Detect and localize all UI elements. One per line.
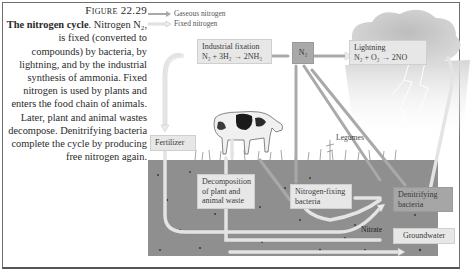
groundwater-box: Groundwater (393, 228, 455, 244)
denitrifying-label: Denitrifying bacteria (398, 190, 438, 209)
legend-label: Gaseous nitrogen (174, 9, 226, 19)
nitrogen-fixing-box: Nitrogen-fixing bacteria (290, 184, 352, 209)
industrial-fixation-box: Industrial fixation N₂ + 3H₂ → 2NH₃ (197, 39, 272, 64)
n2-box: N₂ (292, 42, 314, 64)
legend-item-gaseous: Gaseous nitrogen (148, 9, 226, 19)
legend: Gaseous nitrogen Fixed nitrogen (148, 9, 226, 29)
nitrate-label: Nitrate (361, 225, 382, 234)
legend-label: Fixed nitrogen (174, 19, 217, 29)
gaseous-arrow-icon (148, 11, 172, 17)
industrial-fixation-title: Industrial fixation (202, 42, 267, 52)
fertilizer-box: Fertilizer (150, 135, 196, 151)
n2-label: N₂ (299, 48, 308, 57)
legumes-label: Legumes (336, 133, 364, 142)
denitrifying-box: Denitrifying bacteria (393, 187, 453, 212)
nitrogen-fixing-label: Nitrogen-fixing bacteria (295, 187, 345, 206)
lightning-equation: N₂ + O₂ → 2NO (354, 53, 422, 63)
decomposition-label: Decomposition of plant and animal waste (202, 177, 251, 205)
fixed-arrow-icon (148, 21, 172, 27)
lightning-title: Lightning (354, 43, 422, 53)
decomposition-box: Decomposition of plant and animal waste (197, 174, 255, 209)
fertilizer-label: Fertilizer (155, 138, 184, 147)
lightning-box: Lightning N₂ + O₂ → 2NO (349, 40, 427, 65)
groundwater-label: Groundwater (403, 231, 445, 240)
industrial-fixation-equation: N₂ + 3H₂ → 2NH₃ (202, 52, 267, 62)
cow-icon (214, 112, 283, 155)
legend-item-fixed: Fixed nitrogen (148, 19, 226, 29)
